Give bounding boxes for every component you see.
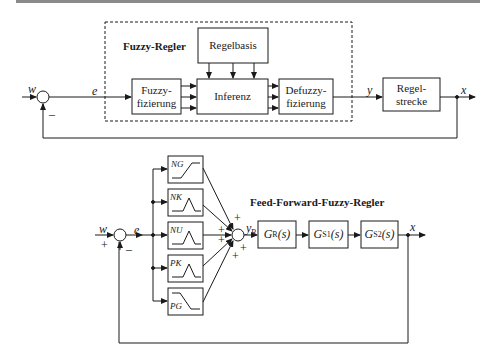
regelbasis-block: Regelbasis bbox=[198, 28, 268, 63]
signal-e-top: e bbox=[92, 85, 97, 97]
feed-forward-title: Feed-Forward-Fuzzy-Regler bbox=[250, 196, 384, 208]
signal-e-bottom: e bbox=[134, 224, 139, 236]
gs1-sub: S1 bbox=[322, 230, 330, 239]
inferenz-label: Inferenz bbox=[214, 90, 251, 103]
defuzzyfizierung-block: Defuzzy- fizierung bbox=[279, 79, 333, 114]
signal-x-bottom: x bbox=[410, 221, 415, 233]
signal-yr-sub: R bbox=[251, 228, 256, 237]
gs1-main: G bbox=[314, 227, 323, 242]
gs2-arg: (s) bbox=[382, 227, 395, 242]
fuzzyfizierung-label-1: Fuzzy- bbox=[141, 84, 172, 97]
gs1-arg: (s) bbox=[331, 227, 344, 242]
mf-pg-label: PG bbox=[170, 302, 182, 311]
signal-x-top: x bbox=[461, 84, 466, 96]
defuzzyfizierung-label-1: Defuzzy- bbox=[286, 84, 327, 97]
regelstrecke-label-2: strecke bbox=[396, 95, 427, 108]
plus-sign-w: + bbox=[101, 239, 108, 251]
controller-transfer-block: GR(s) bbox=[258, 221, 296, 248]
plant2-transfer-block: GS2(s) bbox=[361, 221, 398, 248]
regelstrecke-block: Regel- strecke bbox=[383, 78, 440, 111]
plant1-transfer-block: GS1(s) bbox=[309, 221, 348, 248]
fuzzy-controller-title: Fuzzy-Regler bbox=[123, 40, 186, 52]
minus-sign-bottom: – bbox=[126, 243, 132, 255]
summing-junction-top bbox=[37, 91, 49, 103]
fuzzyfizierung-label-2: fizierung bbox=[137, 97, 177, 110]
signal-w-top: w bbox=[28, 83, 36, 95]
summing-junction-error bbox=[114, 229, 126, 241]
plus-sign-1: + bbox=[234, 212, 241, 224]
signal-w-bottom: w bbox=[99, 223, 107, 235]
minus-sign-top: – bbox=[49, 108, 55, 120]
signal-yr: yR bbox=[246, 222, 257, 239]
inferenz-block: Inferenz bbox=[197, 79, 268, 114]
regelstrecke-label-1: Regel- bbox=[397, 82, 426, 95]
defuzzyfizierung-label-2: fizierung bbox=[286, 97, 326, 110]
gr-main: G bbox=[264, 227, 273, 242]
regelbasis-label: Regelbasis bbox=[209, 39, 257, 52]
plus-sign-4: + bbox=[240, 242, 247, 254]
gs2-sub: S2 bbox=[373, 230, 381, 239]
mf-pk-label: PK bbox=[170, 259, 182, 268]
gs2-main: G bbox=[365, 227, 374, 242]
fuzzyfizierung-block: Fuzzy- fizierung bbox=[132, 79, 181, 114]
signal-y-top: y bbox=[367, 84, 372, 96]
gr-arg: (s) bbox=[278, 227, 291, 242]
plus-sign-5: + bbox=[232, 250, 239, 262]
mf-ng-label: NG bbox=[171, 160, 184, 169]
mf-nk-label: NK bbox=[170, 193, 182, 202]
summing-junction-fuzzy bbox=[232, 229, 244, 241]
mf-nu-label: NU bbox=[170, 226, 183, 235]
plus-sign-3: + bbox=[218, 234, 225, 246]
